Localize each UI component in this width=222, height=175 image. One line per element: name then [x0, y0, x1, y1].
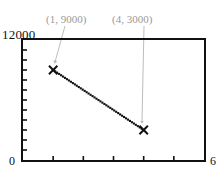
data-point-dot — [76, 85, 78, 87]
data-point-dot — [113, 109, 115, 111]
data-point-dot — [103, 103, 105, 105]
data-point-dot — [78, 86, 80, 88]
y-axis-ticks — [23, 50, 27, 150]
data-point-dot — [72, 82, 74, 84]
data-point-dot — [88, 92, 90, 94]
annotation-arrows — [55, 26, 144, 122]
data-point-dot — [93, 96, 95, 98]
data-point-dot — [129, 120, 131, 122]
data-point-dot — [66, 78, 68, 80]
data-point-dot — [107, 106, 109, 108]
data-point-dot — [135, 124, 137, 126]
data-point-dot — [117, 112, 119, 114]
data-point-dot — [80, 87, 82, 89]
data-point-marker — [139, 126, 147, 134]
data-point-dot — [123, 116, 125, 118]
annotation-arrow-second-point — [142, 26, 144, 122]
data-point-dot — [137, 125, 139, 127]
x-axis-ticks — [53, 156, 174, 160]
data-point-dot — [74, 83, 76, 85]
data-point-dot — [97, 99, 99, 101]
data-point-dot — [101, 102, 103, 104]
data-point-dot — [58, 73, 60, 75]
data-point-dot — [95, 98, 97, 100]
data-point-dot — [68, 79, 70, 81]
data-point-dot — [131, 121, 133, 123]
data-point-dot — [125, 117, 127, 119]
data-point-dot — [92, 95, 94, 97]
data-point-dot — [62, 76, 64, 78]
plot-frame — [22, 39, 205, 161]
annotation-arrow-first-point — [55, 26, 65, 62]
data-point-dot — [99, 100, 101, 102]
data-point-dot — [64, 77, 66, 79]
data-point-dot — [84, 90, 86, 92]
data-point-marker — [49, 66, 57, 74]
data-point-dot — [119, 113, 121, 115]
data-point-dot — [121, 115, 123, 117]
data-point-dot — [86, 91, 88, 93]
data-point-dot — [109, 107, 111, 109]
data-point-dot — [70, 81, 72, 83]
data-point-dot — [90, 94, 92, 96]
data-point-dot — [127, 119, 129, 121]
data-point-dot — [133, 122, 135, 124]
data-point-dot — [60, 74, 62, 76]
data-series-line — [52, 69, 145, 131]
plot-area — [0, 0, 222, 175]
data-point-dot — [115, 111, 117, 113]
chart-figure: 12000 0 6 (1, 9000) (4, 3000) — [0, 0, 222, 175]
data-point-dot — [111, 108, 113, 110]
data-point-dot — [82, 89, 84, 91]
data-point-dot — [105, 104, 107, 106]
